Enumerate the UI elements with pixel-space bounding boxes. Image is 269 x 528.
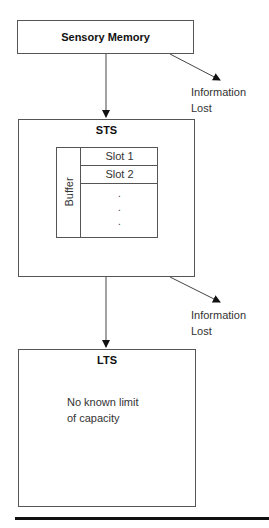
slot-2: Slot 2 [81,166,158,184]
slot-ellipsis: . . . [81,187,158,229]
slot-1: Slot 1 [81,148,158,166]
sensory-memory-box: Sensory Memory [17,20,194,54]
bottom-rule [15,517,269,520]
information-lost-label-2: Information Lost [191,307,246,339]
lts-label: LTS [19,352,195,368]
buffer-box: Buffer Slot 1 Slot 2 . . . [56,147,158,238]
information-lost-label-1: Information Lost [191,84,246,116]
sts-box: STS Buffer Slot 1 Slot 2 . . . [18,119,195,277]
buffer-label-column: Buffer [57,148,81,237]
sts-label: STS [19,122,194,138]
buffer-label: Buffer [61,168,77,216]
sensory-memory-label: Sensory Memory [18,29,193,45]
lts-capacity-note: No known limit of capacity [67,394,139,426]
lts-box: LTS No known limit of capacity [18,349,196,507]
